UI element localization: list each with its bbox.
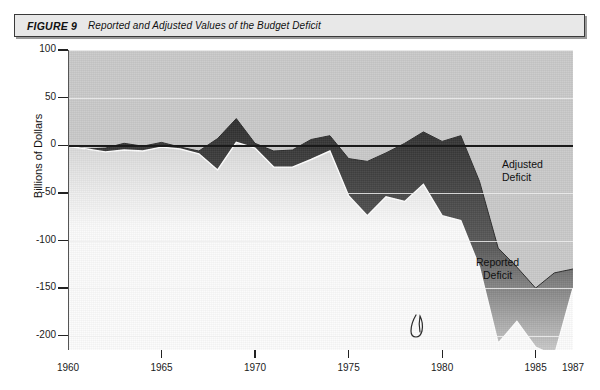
- x-tick: [535, 350, 536, 358]
- annotation-reported-deficit: Reported Deficit: [476, 256, 519, 282]
- gridline: [68, 50, 573, 51]
- figure-title-bar: FIGURE 9 Reported and Adjusted Values of…: [14, 14, 585, 37]
- x-tick-label: 1970: [232, 362, 278, 373]
- gridline: [68, 336, 573, 337]
- y-tick: [58, 192, 68, 193]
- zero-line: [68, 145, 573, 146]
- x-tick-label: 1975: [326, 362, 372, 373]
- y-tick-label: -100: [8, 234, 56, 245]
- x-tick-label: 1960: [45, 362, 91, 373]
- gridline: [68, 193, 573, 194]
- x-tick: [254, 350, 255, 358]
- y-tick: [58, 240, 68, 241]
- y-tick-label: -50: [8, 186, 56, 197]
- x-tick: [348, 350, 349, 358]
- y-tick-label: -150: [8, 281, 56, 292]
- gridline: [68, 288, 573, 289]
- x-tick: [442, 350, 443, 358]
- plot-area: Adjusted Deficit Reported Deficit: [68, 50, 573, 350]
- y-axis-spine: [68, 50, 69, 350]
- y-tick-label: -200: [8, 329, 56, 340]
- gridline: [68, 98, 573, 99]
- y-tick: [58, 145, 68, 146]
- x-tick-label: 1987: [550, 362, 596, 373]
- x-tick-label: 1980: [419, 362, 465, 373]
- figure-root: FIGURE 9 Reported and Adjusted Values of…: [0, 0, 600, 390]
- y-tick-label: 50: [8, 91, 56, 102]
- y-tick: [58, 49, 68, 50]
- y-tick-label: 100: [8, 43, 56, 54]
- figure-caption: Reported and Adjusted Values of the Budg…: [88, 20, 321, 31]
- gridline: [68, 241, 573, 242]
- annotation-adjusted-deficit: Adjusted Deficit: [502, 158, 573, 184]
- y-tick: [58, 335, 68, 336]
- y-tick: [58, 287, 68, 288]
- deficit-band-chart: [68, 50, 573, 350]
- y-tick: [58, 97, 68, 98]
- x-tick: [161, 350, 162, 358]
- y-tick-group: 100500-50-100-150-200: [0, 0, 56, 390]
- x-tick-label: 1965: [139, 362, 185, 373]
- y-tick-label: 0: [8, 138, 56, 149]
- handwritten-mark-icon: [404, 312, 430, 342]
